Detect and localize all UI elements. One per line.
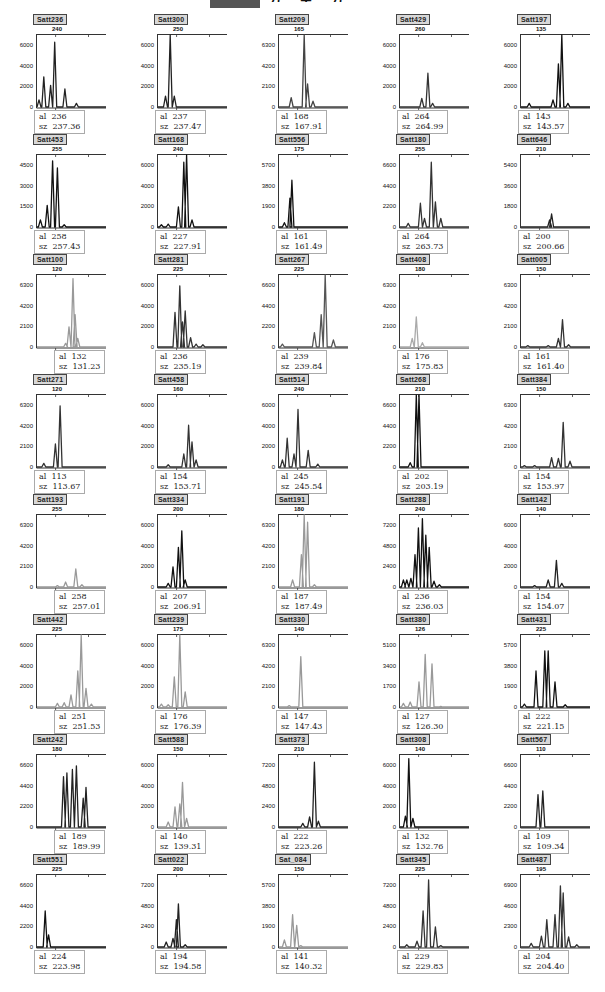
size-value: sz 153.97 bbox=[523, 482, 564, 492]
y-tick-label: 0 bbox=[249, 584, 275, 590]
y-tick-label: 0 bbox=[7, 704, 33, 710]
size-value: sz 175.83 bbox=[402, 362, 443, 372]
y-tick-label: 4200 bbox=[491, 423, 517, 429]
size-value: sz 140.32 bbox=[281, 962, 322, 972]
electropherogram-plot bbox=[157, 274, 229, 350]
allele-call-box: al 204sz 204.40 bbox=[518, 950, 569, 974]
y-tick-label: 6600 bbox=[491, 762, 517, 768]
marker-panel: Satt6462105400360018000al 200sz 200.66 bbox=[484, 132, 605, 252]
allele-value: al 132 bbox=[402, 832, 443, 842]
marker-label: Satt180 bbox=[396, 134, 430, 145]
electropherogram-plot bbox=[520, 754, 592, 830]
size-value: sz 245.54 bbox=[281, 482, 322, 492]
y-tick-label: 3800 bbox=[249, 183, 275, 189]
x-tick-label: 140 bbox=[536, 506, 546, 512]
y-tick-label: 0 bbox=[370, 104, 396, 110]
y-tick-label: 6000 bbox=[7, 642, 33, 648]
y-tick-label: 0 bbox=[491, 224, 517, 230]
y-tick-label: 1900 bbox=[491, 683, 517, 689]
allele-call-box: al 176sz 175.83 bbox=[397, 350, 448, 374]
y-tick-label: 0 bbox=[491, 704, 517, 710]
y-tick-label: 7200 bbox=[249, 762, 275, 768]
size-value: sz 223.98 bbox=[39, 962, 80, 972]
size-value: sz 194.58 bbox=[160, 962, 201, 972]
x-tick-label: 255 bbox=[52, 146, 62, 152]
marker-panel: Satt2672256600440022000al 239sz 239.84 bbox=[242, 252, 363, 372]
x-tick-label: 140 bbox=[415, 746, 425, 752]
y-tick-label: 2400 bbox=[370, 563, 396, 569]
allele-call-box: al 236sz 237.36 bbox=[34, 110, 85, 134]
allele-call-box: al 264sz 263.73 bbox=[397, 230, 448, 254]
peak-trace bbox=[279, 35, 348, 107]
allele-value: al 229 bbox=[402, 952, 443, 962]
allele-call-box: al 207sz 206.91 bbox=[155, 590, 206, 614]
marker-panel: Satt4532554500300015000al 258sz 257.43 bbox=[0, 132, 121, 252]
marker-label: Satt197 bbox=[517, 14, 551, 25]
marker-label: Satt487 bbox=[517, 854, 551, 865]
marker-panel: Satt2362406000400020000al 236sz 237.36 bbox=[0, 12, 121, 132]
allele-value: al 236 bbox=[402, 592, 443, 602]
allele-value: al 161 bbox=[281, 232, 322, 242]
y-tick-label: 0 bbox=[370, 584, 396, 590]
size-value: sz 109.34 bbox=[523, 842, 564, 852]
y-tick-label: 4800 bbox=[249, 783, 275, 789]
size-value: sz 203.19 bbox=[402, 482, 443, 492]
marker-panel: Satt3002506000400020000al 237sz 237.47 bbox=[121, 12, 242, 132]
y-tick-label: 4800 bbox=[128, 903, 154, 909]
allele-call-box: al 127sz 126.30 bbox=[397, 710, 448, 734]
y-tick-label: 2100 bbox=[7, 443, 33, 449]
allele-call-box: al 168sz 167.91 bbox=[276, 110, 327, 134]
size-value: sz 237.36 bbox=[39, 122, 80, 132]
y-tick-label: 4400 bbox=[7, 783, 33, 789]
y-tick-label: 4400 bbox=[7, 903, 33, 909]
marker-label: Satt588 bbox=[154, 734, 188, 745]
marker-label: Satt268 bbox=[396, 374, 430, 385]
y-tick-label: 6300 bbox=[7, 402, 33, 408]
y-tick-label: 1800 bbox=[491, 203, 517, 209]
x-tick-label: 160 bbox=[173, 386, 183, 392]
size-value: sz 257.01 bbox=[59, 602, 100, 612]
y-tick-label: 0 bbox=[370, 224, 396, 230]
allele-call-box: al 154sz 154.07 bbox=[518, 590, 569, 614]
marker-panel: Satt2682106600440022000al 202sz 203.19 bbox=[363, 372, 484, 492]
peak-trace bbox=[37, 766, 106, 827]
x-tick-label: 225 bbox=[52, 626, 62, 632]
y-tick-label: 0 bbox=[7, 824, 33, 830]
size-value: sz 153.71 bbox=[160, 482, 201, 492]
marker-panel: Satt5881506000400020000al 140sz 139.31 bbox=[121, 732, 242, 852]
x-tick-label: 240 bbox=[52, 26, 62, 32]
marker-panel: Satt3342006000400020000al 207sz 206.91 bbox=[121, 492, 242, 612]
y-tick-label: 0 bbox=[491, 944, 517, 950]
y-tick-label: 4200 bbox=[7, 543, 33, 549]
size-value: sz 161.49 bbox=[281, 242, 322, 252]
y-tick-label: 0 bbox=[249, 344, 275, 350]
y-tick-label: 7200 bbox=[128, 882, 154, 888]
peak-trace bbox=[521, 651, 590, 707]
y-tick-label: 6600 bbox=[7, 882, 33, 888]
y-tick-label: 4800 bbox=[370, 903, 396, 909]
y-tick-label: 4200 bbox=[7, 423, 33, 429]
peak-trace bbox=[400, 654, 469, 707]
size-value: sz 147.43 bbox=[281, 722, 322, 732]
marker-panel: Satt1421406000400020000al 154sz 154.07 bbox=[484, 492, 605, 612]
allele-call-box: al 189sz 189.99 bbox=[54, 830, 105, 854]
electropherogram-plot bbox=[399, 154, 471, 230]
x-tick-label: 150 bbox=[173, 746, 183, 752]
figure-title: 分 型 分 bbox=[210, 0, 350, 10]
marker-panel: Satt4871956900460023000al 204sz 204.40 bbox=[484, 852, 605, 972]
marker-label: Satt384 bbox=[517, 374, 551, 385]
y-tick-label: 3600 bbox=[491, 183, 517, 189]
y-tick-label: 0 bbox=[370, 944, 396, 950]
x-tick-label: 210 bbox=[536, 146, 546, 152]
size-value: sz 139.31 bbox=[160, 842, 201, 852]
size-value: sz 235.19 bbox=[160, 362, 201, 372]
size-value: sz 237.47 bbox=[160, 122, 201, 132]
peak-trace bbox=[521, 422, 590, 467]
electropherogram-plot bbox=[36, 874, 108, 950]
allele-value: al 251 bbox=[59, 712, 100, 722]
y-tick-label: 0 bbox=[370, 464, 396, 470]
marker-label: Satt334 bbox=[154, 494, 188, 505]
marker-label: Satt380 bbox=[396, 614, 430, 625]
allele-value: al 168 bbox=[281, 112, 322, 122]
y-tick-label: 0 bbox=[491, 584, 517, 590]
